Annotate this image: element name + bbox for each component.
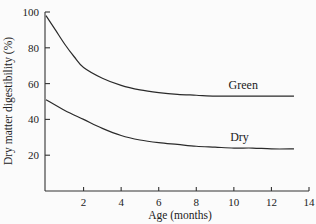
- line-chart: 246810121420406080100 GreenDry Age (mont…: [0, 0, 316, 224]
- series-labels: GreenDry: [229, 78, 258, 144]
- y-tick-label: 80: [28, 42, 40, 54]
- x-tick-label: 6: [156, 196, 162, 208]
- y-tick-label: 20: [28, 149, 40, 161]
- series-line-dry: [46, 100, 294, 149]
- x-tick-label: 12: [266, 196, 277, 208]
- y-tick-label: 40: [28, 113, 40, 125]
- series-label-green: Green: [229, 78, 258, 92]
- y-tick-label: 60: [28, 78, 40, 90]
- y-axis-title: Dry matter digestibility (%): [2, 37, 15, 165]
- series-label-dry: Dry: [230, 130, 249, 144]
- y-tick-label: 100: [23, 6, 40, 18]
- x-tick-label: 2: [81, 196, 87, 208]
- x-tick-label: 8: [194, 196, 200, 208]
- x-axis-title: Age (months): [148, 209, 212, 222]
- x-tick-label: 10: [228, 196, 240, 208]
- x-tick-label: 4: [118, 196, 124, 208]
- axes: 246810121420406080100: [23, 6, 316, 208]
- x-tick-label: 14: [304, 196, 316, 208]
